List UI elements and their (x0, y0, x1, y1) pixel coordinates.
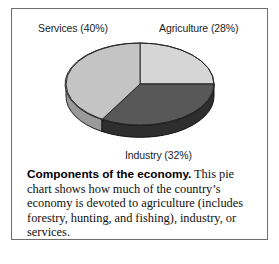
figure-frame: Services (40%) Agriculture (28%) Industr… (11, 8, 268, 240)
pie-chart-graphic (60, 29, 220, 147)
pie-label-agriculture: Agriculture (28%) (159, 22, 238, 34)
caption-lead-in: Components of the economy. (27, 167, 191, 181)
pie-chart-area: Services (40%) Agriculture (28%) Industr… (12, 9, 267, 161)
pie-label-services: Services (40%) (38, 22, 108, 34)
slice-agriculture (140, 43, 214, 84)
pie-label-industry: Industry (32%) (125, 149, 192, 161)
figure-caption: Components of the economy. This pie char… (12, 161, 267, 239)
caption-paragraph: Components of the economy. This pie char… (27, 167, 253, 240)
